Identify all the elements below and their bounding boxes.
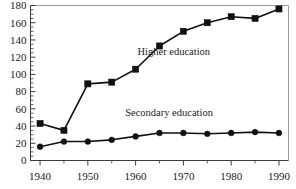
data-point-circle bbox=[109, 137, 115, 143]
y-tick-label: 140 bbox=[10, 34, 27, 46]
x-tick-label: 1980 bbox=[220, 170, 243, 182]
plot-frame bbox=[31, 6, 289, 161]
series-label-higher-education: Higher education bbox=[138, 46, 211, 57]
data-point-circle bbox=[133, 133, 139, 139]
x-tick-label: 1940 bbox=[29, 170, 52, 182]
y-tick-label: 20 bbox=[16, 137, 28, 149]
x-tick-label: 1990 bbox=[268, 170, 291, 182]
data-point-circle bbox=[85, 139, 91, 145]
x-tick-label: 1960 bbox=[125, 170, 148, 182]
series-secondary-education bbox=[37, 129, 282, 149]
data-point-square bbox=[276, 6, 282, 12]
y-tick-label: 40 bbox=[16, 120, 28, 132]
data-point-circle bbox=[157, 130, 163, 136]
data-point-circle bbox=[61, 139, 67, 145]
data-point-circle bbox=[276, 130, 282, 136]
data-point-square bbox=[133, 66, 139, 72]
series-annotations: Higher educationSecondary education bbox=[125, 46, 214, 117]
data-point-square bbox=[252, 15, 258, 21]
data-point-circle bbox=[180, 130, 186, 136]
x-tick-label: 1970 bbox=[172, 170, 195, 182]
data-point-circle bbox=[252, 129, 258, 135]
chart-canvas: 020406080100120140160180 194019501960197… bbox=[0, 0, 296, 189]
x-axis-tick-labels: 194019501960197019801990 bbox=[29, 170, 290, 182]
data-point-square bbox=[109, 79, 115, 85]
series-label-secondary-education: Secondary education bbox=[125, 107, 214, 118]
data-point-circle bbox=[228, 130, 234, 136]
data-point-square bbox=[180, 28, 186, 34]
line-chart: 020406080100120140160180 194019501960197… bbox=[0, 0, 296, 189]
y-tick-label: 0 bbox=[21, 154, 27, 166]
data-series-group bbox=[37, 6, 282, 150]
data-point-square bbox=[85, 81, 91, 87]
y-axis-tick-labels: 020406080100120140160180 bbox=[10, 0, 27, 166]
data-point-square bbox=[228, 14, 234, 20]
data-point-square bbox=[204, 20, 210, 26]
data-point-circle bbox=[204, 131, 210, 137]
data-point-circle bbox=[37, 144, 43, 150]
y-tick-label: 180 bbox=[10, 0, 27, 11]
y-tick-label: 100 bbox=[10, 68, 27, 80]
y-tick-label: 60 bbox=[16, 103, 28, 115]
y-tick-label: 160 bbox=[10, 17, 27, 29]
data-point-square bbox=[37, 120, 43, 126]
y-tick-label: 80 bbox=[16, 85, 28, 97]
y-tick-label: 120 bbox=[10, 51, 27, 63]
data-point-square bbox=[61, 127, 67, 133]
x-tick-label: 1950 bbox=[77, 170, 100, 182]
